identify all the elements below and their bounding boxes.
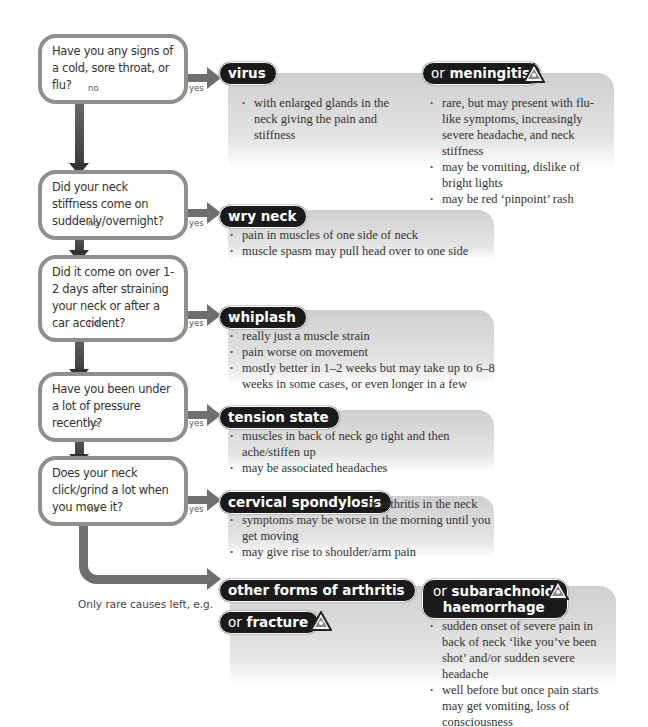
bullet: may give rise to shoulder/arm pain	[228, 544, 496, 560]
subarachnoid-pill: or subarachnoid haemorrhage	[422, 579, 568, 619]
warning-triangle-icon	[523, 63, 545, 83]
arthritis-aside: or arthritis in the neck	[367, 497, 477, 512]
wry-neck-bullets: pain in muscles of one side of neck musc…	[228, 227, 498, 259]
bullet: well before but once pain starts may get…	[428, 682, 613, 727]
question-2: Did your neck stiffness come on suddenly…	[38, 170, 188, 240]
yes-arrow-2	[185, 209, 209, 217]
subarachnoid-label-line2: haemorrhage	[433, 599, 555, 615]
whiplash-pill: whiplash	[219, 306, 307, 329]
or-prefix: or	[228, 614, 242, 630]
question-4: Have you been under a lot of pressure re…	[38, 372, 188, 442]
tension-state-bullets: muscles in back of neck go tight and the…	[228, 428, 496, 476]
bullet: rare, but may present with flu-like symp…	[428, 95, 608, 159]
subarachnoid-label-line1: subarachnoid	[452, 583, 555, 599]
question-5: Does your neck click/grind a lot when yo…	[38, 456, 188, 526]
no-label-4: no	[88, 418, 99, 428]
bullet: mostly better in 1–2 weeks but may take …	[228, 360, 496, 392]
bullet: really just a muscle strain	[228, 328, 496, 344]
yes-label-1: yes	[189, 83, 204, 93]
bullet: symptoms may be worse in the morning unt…	[228, 512, 496, 544]
whiplash-bullets: really just a muscle strain pain worse o…	[228, 328, 496, 392]
meningitis-label: meningitis	[450, 65, 530, 81]
no-label-5: no	[88, 504, 99, 514]
question-1: Have you any signs of a cold, sore throa…	[38, 34, 188, 104]
cervical-spondylosis-bullets: symptoms may be worse in the morning unt…	[228, 512, 496, 560]
yes-arrow-1	[185, 74, 209, 82]
yes-label-5: yes	[189, 504, 204, 514]
or-prefix: or	[431, 65, 445, 81]
fracture-label: fracture	[247, 614, 309, 630]
other-arthritis-pill: other forms of arthritis	[219, 579, 416, 602]
bullet: sudden onset of severe pain in back of n…	[428, 618, 613, 682]
bullet: muscle spasm may pull head over to one s…	[228, 243, 498, 259]
warning-triangle-icon	[310, 611, 332, 631]
bullet: pain worse on movement	[228, 344, 496, 360]
no-label-3: no	[88, 318, 99, 328]
yes-arrow-5	[185, 496, 209, 504]
bullet: with enlarged glands in the neck giving …	[240, 95, 415, 143]
fracture-pill: or fracture	[219, 611, 319, 634]
bullet: muscles in back of neck go tight and the…	[228, 428, 496, 460]
meningitis-bullets: rare, but may present with flu-like symp…	[428, 95, 608, 207]
yes-label-4: yes	[189, 418, 204, 428]
warning-triangle-icon	[547, 580, 569, 600]
no-label-1: no	[88, 83, 99, 93]
wry-neck-pill: wry neck	[219, 205, 307, 228]
bullet: may be associated headaches	[228, 460, 496, 476]
yes-label-3: yes	[189, 318, 204, 328]
bullet: may be red ‘pinpoint’ rash	[428, 191, 608, 207]
yes-label-2: yes	[189, 218, 204, 228]
question-3: Did it come on over 1-2 days after strai…	[38, 255, 188, 342]
virus-pill: virus	[219, 62, 277, 85]
bullet: may be vomiting, dislike of bright light…	[428, 159, 608, 191]
virus-bullets: with enlarged glands in the neck giving …	[240, 95, 415, 143]
or-prefix: or	[433, 583, 447, 599]
rare-causes-label: Only rare causes left, e.g.	[78, 598, 213, 610]
bullet: pain in muscles of one side of neck	[228, 227, 498, 243]
subarachnoid-bullets: sudden onset of severe pain in back of n…	[428, 618, 613, 727]
no-label-2: no	[88, 218, 99, 228]
tension-state-pill: tension state	[219, 406, 340, 429]
